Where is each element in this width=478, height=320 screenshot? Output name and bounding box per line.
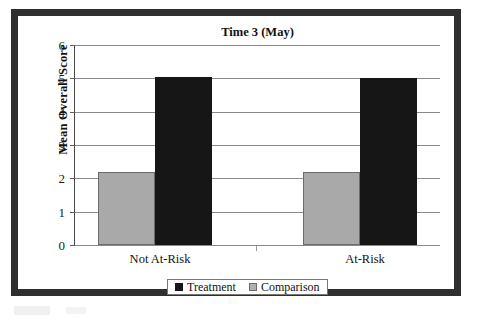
- y-tick-label-0: 0: [39, 239, 65, 252]
- bar-treatment-at-risk: [360, 78, 417, 245]
- scan-artifact-secondary: [66, 307, 86, 314]
- y-tick-label-4: 4: [39, 106, 65, 119]
- bar-comparison-not-at-risk: [98, 172, 155, 245]
- y-tick-label-3: 3: [39, 139, 65, 152]
- legend-label-treatment: Treatment: [187, 281, 236, 293]
- bar-comparison-at-risk: [303, 172, 360, 245]
- plot-area: [75, 45, 440, 245]
- legend-entry-comparison: Comparison: [249, 281, 320, 293]
- x-tick-label-not-at-risk: Not At-Risk: [95, 252, 225, 267]
- gridline-0: [75, 245, 440, 246]
- legend-entry-treatment: Treatment: [175, 281, 236, 293]
- x-axis-center-tick: [256, 246, 257, 251]
- bar-treatment-not-at-risk: [155, 77, 212, 245]
- scan-artifact: [14, 306, 50, 315]
- y-tick-label-1: 1: [39, 206, 65, 219]
- chart-title: Time 3 (May): [75, 25, 440, 40]
- y-tick-mark-0: [70, 245, 75, 246]
- gray-square-swatch-icon: [249, 283, 257, 291]
- figure-container: Time 3 (May) Mean Overall Score 0123456 …: [0, 0, 478, 320]
- x-tick-label-at-risk: At-Risk: [300, 252, 430, 267]
- chart-legend: Treatment Comparison: [167, 279, 328, 295]
- black-square-swatch-icon: [175, 283, 183, 291]
- y-tick-label-6: 6: [39, 39, 65, 52]
- legend-label-comparison: Comparison: [261, 281, 320, 293]
- y-tick-label-5: 5: [39, 72, 65, 85]
- y-tick-label-2: 2: [39, 172, 65, 185]
